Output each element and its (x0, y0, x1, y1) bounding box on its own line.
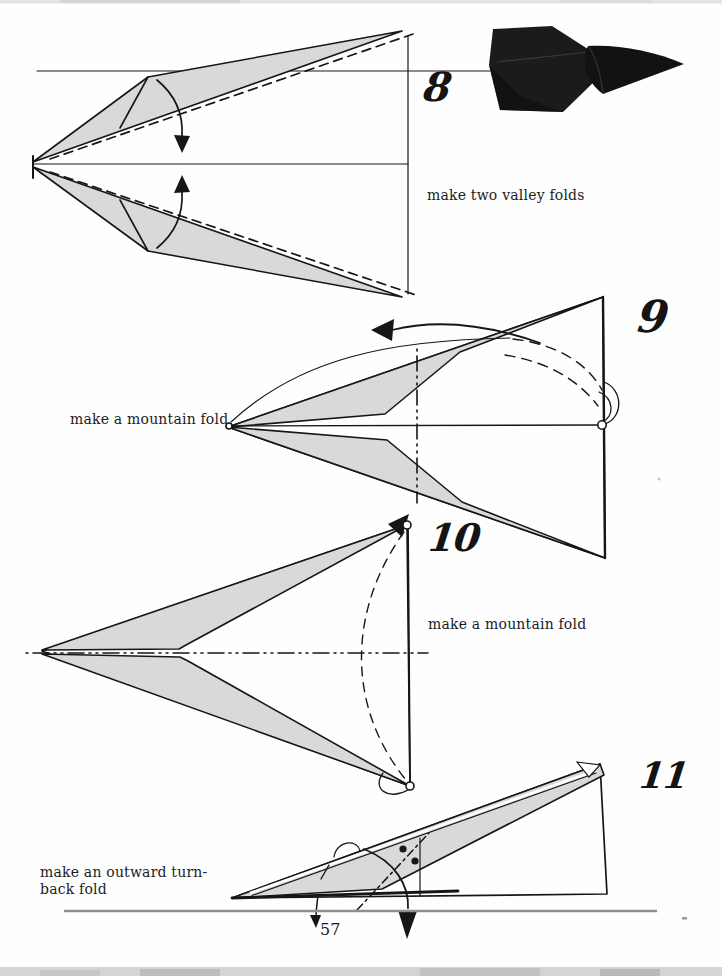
step10-top-vertex (403, 521, 411, 529)
step8-diagram (33, 31, 490, 297)
step11-dot-1 (399, 845, 406, 852)
step8-upper-valley-fold-dashed (50, 33, 416, 159)
step9-caption: make a mountain fold (70, 411, 228, 428)
step11-caption-line1: make an outward turn- (40, 864, 207, 881)
step10-number: 10 (427, 519, 483, 557)
step11-dot-2 (411, 857, 418, 864)
step9-right-vertex (598, 421, 606, 429)
step11-caption-line2: back fold (40, 881, 207, 898)
origami-diagrams (0, 0, 722, 976)
step8-caption: make two valley folds (427, 187, 585, 204)
step11-caption: make an outward turn- back fold (40, 864, 207, 898)
book-page: 8 make two valley folds 9 make a mountai… (0, 0, 722, 976)
page-number: 57 (320, 920, 340, 939)
step8-lower-wing (33, 167, 402, 297)
step10-caption: make a mountain fold (428, 616, 586, 633)
paper-airplane-photo (489, 26, 684, 112)
scan-artifacts (0, 0, 722, 976)
step11-diagram (232, 762, 607, 939)
step8-lower-valley-fold-dashed (50, 172, 416, 295)
step9-wrap-arc-1 (604, 382, 619, 424)
step9-diagram (226, 297, 619, 558)
step11-number: 11 (638, 757, 691, 793)
step9-number: 9 (635, 295, 670, 339)
step8-number: 8 (422, 67, 454, 107)
step10-diagram (26, 514, 428, 794)
step8-upper-wing (33, 31, 402, 162)
step10-bottom-vertex (406, 782, 414, 790)
